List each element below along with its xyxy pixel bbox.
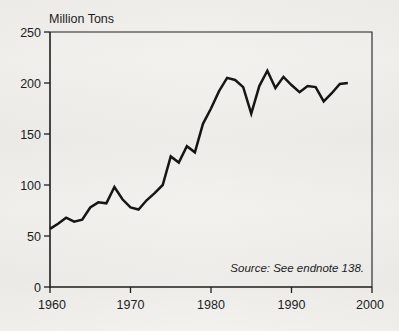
- line-chart: Million Tons 250 200 150 100 50 0: [0, 0, 399, 331]
- x-axis-tick-labels: 1960 1970 1980 1990 2000: [38, 298, 384, 312]
- y-axis-title: Million Tons: [49, 12, 114, 26]
- x-tick-label-1980: 1980: [197, 298, 225, 312]
- source-note: Source: See endnote 138.: [230, 262, 364, 274]
- y-tick-label-200: 200: [20, 77, 41, 91]
- chart-figure: Million Tons 250 200 150 100 50 0: [0, 0, 399, 331]
- data-series-line: [50, 71, 348, 229]
- y-tick-label-50: 50: [27, 230, 41, 244]
- y-axis-tick-labels: 250 200 150 100 50 0: [20, 26, 41, 295]
- plot-frame-top-right: [50, 32, 372, 287]
- axis-lines: [50, 32, 372, 287]
- y-tick-label-150: 150: [20, 128, 41, 142]
- x-tick-label-1970: 1970: [117, 298, 145, 312]
- x-tick-label-1960: 1960: [38, 298, 66, 312]
- x-tick-label-1990: 1990: [278, 298, 306, 312]
- x-axis-ticks: [50, 287, 372, 293]
- y-tick-label-0: 0: [34, 281, 41, 295]
- y-tick-label-250: 250: [20, 26, 41, 40]
- y-axis-ticks: [44, 32, 50, 287]
- x-tick-label-2000: 2000: [356, 298, 384, 312]
- y-tick-label-100: 100: [20, 179, 41, 193]
